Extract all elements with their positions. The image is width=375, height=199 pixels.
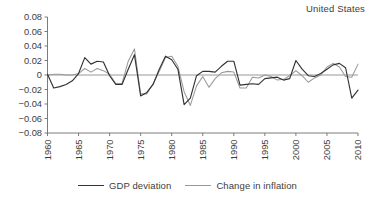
x-tick-label: 1995 xyxy=(260,140,270,161)
legend-label: GDP deviation xyxy=(109,180,171,191)
x-tick-label: 1990 xyxy=(229,140,239,161)
legend-line-swatch xyxy=(78,185,104,186)
legend-entry: GDP deviation xyxy=(78,180,171,191)
y-tick-label: 0.08 xyxy=(24,12,42,22)
y-tick-label: 0.06 xyxy=(24,27,42,37)
x-tick-label: 1970 xyxy=(105,140,115,161)
x-tick-label: 2000 xyxy=(291,140,301,161)
x-tick-label: 2010 xyxy=(353,140,363,161)
legend-entry: Change in inflation xyxy=(185,180,297,191)
x-tick-label: 1965 xyxy=(74,140,84,161)
legend-label: Change in inflation xyxy=(216,180,297,191)
y-tick-label: 0.02 xyxy=(24,56,42,66)
x-tick-label: 1960 xyxy=(43,140,53,161)
y-tick-label: 0 xyxy=(37,70,42,80)
x-tick-label: 1975 xyxy=(136,140,146,161)
x-tick-label: 1985 xyxy=(198,140,208,161)
y-tick-label: −0.02 xyxy=(18,85,42,95)
x-tick-label: 1980 xyxy=(167,140,177,161)
legend-line-swatch xyxy=(185,185,211,186)
y-tick-label: 0.04 xyxy=(24,41,42,51)
x-axis: 1960196519701975198019851990199520002005… xyxy=(43,133,364,160)
y-tick-label: −0.04 xyxy=(18,99,42,109)
y-axis: 0.080.060.040.020−0.02−0.04−0.06−0.08 xyxy=(18,12,47,138)
series-line-change-in-inflation xyxy=(48,49,359,106)
chart-figure: United States 0.080.060.040.020−0.02−0.0… xyxy=(0,0,375,199)
x-tick-label: 2005 xyxy=(322,140,332,161)
data-series xyxy=(48,49,359,106)
plot-area: 0.080.060.040.020−0.02−0.04−0.06−0.08 19… xyxy=(0,0,375,199)
chart-legend: GDP deviationChange in inflation xyxy=(0,180,375,191)
y-tick-label: −0.06 xyxy=(18,114,42,124)
y-tick-label: −0.08 xyxy=(18,128,42,138)
